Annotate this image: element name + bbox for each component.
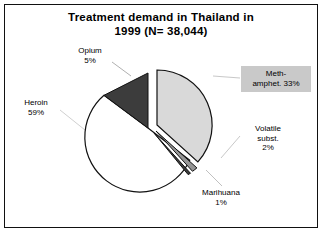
pie-chart-figure: Treatment demand in Thailand in 1999 (N=… bbox=[0, 0, 322, 232]
pie-label-heroin-percent: 59% bbox=[8, 108, 64, 118]
leader-line-meth bbox=[213, 76, 240, 78]
leader-line-volatile bbox=[221, 136, 240, 158]
pie-label-volatile-line-1: Volatile bbox=[255, 124, 281, 133]
pie-label-meth-line-2: amphet. 33% bbox=[243, 79, 309, 89]
pie-label-volatile-substances: Volatile subst. 2% bbox=[240, 124, 296, 153]
pie-label-heroin-name: Heroin bbox=[24, 98, 48, 107]
pie-label-heroin: Heroin 59% bbox=[8, 98, 64, 117]
pie-label-marihuana-name: Marihuana bbox=[202, 188, 240, 197]
leader-line-marihuana bbox=[206, 170, 222, 186]
pie-label-volatile-line-2: subst. bbox=[240, 134, 296, 144]
pie-label-methamphetamine: Meth- amphet. 33% bbox=[241, 66, 311, 92]
pie-label-opium-name: Opium bbox=[78, 46, 102, 55]
pie-label-opium-percent: 5% bbox=[62, 56, 118, 66]
pie-label-meth-line-1: Meth- bbox=[266, 69, 286, 78]
pie-label-volatile-percent: 2% bbox=[240, 143, 296, 153]
pie-label-marihuana-percent: 1% bbox=[190, 198, 252, 208]
pie-label-marihuana: Marihuana 1% bbox=[190, 188, 252, 207]
pie-label-opium: Opium 5% bbox=[62, 46, 118, 65]
